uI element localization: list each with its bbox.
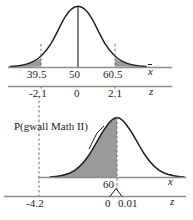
bottom-ztick-label-neg-4-2: -4.2	[26, 197, 44, 209]
bottom-ztick-label-0-01: 0.01	[118, 197, 138, 209]
xbar-glyph-bottom: x	[168, 175, 173, 187]
xbar-glyph: x	[148, 65, 153, 77]
bottom-chart-group	[4, 96, 186, 197]
probability-annotation-label: P(gwall Math II)	[14, 120, 88, 132]
top-z-axis-label: z	[149, 85, 153, 97]
bottom-xbar-axis-label: x	[168, 175, 173, 187]
top-xtick-label-50: 50	[69, 68, 80, 80]
top-xtick-label-39-5: 39.5	[27, 68, 47, 80]
statistics-normal-distribution-figure: 39.5 50 60.5 x -2.1 0 2.1 z P(gwall Math…	[0, 0, 193, 220]
bottom-xtick-label-60: 60	[103, 178, 114, 190]
top-xtick-label-60-5: 60.5	[103, 68, 123, 80]
top-xbar-axis-label: x	[148, 65, 153, 77]
top-ztick-label-neg-2-1: -2.1	[29, 87, 47, 99]
top-ztick-label-2-1: 2.1	[108, 87, 122, 99]
bottom-ztick-label-0: 0	[105, 197, 111, 209]
top-ztick-label-0: 0	[74, 87, 80, 99]
bottom-z-axis-label: z	[170, 195, 174, 207]
figure-canvas	[0, 0, 193, 220]
